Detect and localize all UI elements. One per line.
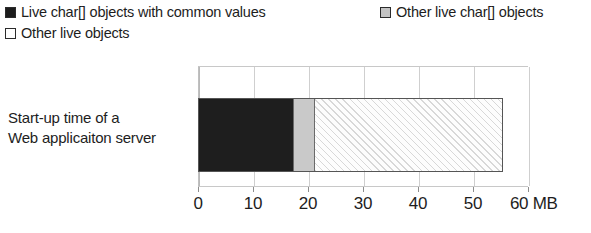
- x-axis: 0102030405060 MB: [198, 187, 528, 233]
- x-tick-label-0: 0: [193, 194, 202, 214]
- bar-segment-other-live-char: [293, 99, 315, 171]
- x-tick-mark-0: [198, 187, 199, 192]
- x-tick-label-60: 60 MB: [510, 194, 558, 214]
- bar-segment-other-live-objects: [315, 99, 502, 171]
- category-axis-label: Start-up time of a Web applicaiton serve…: [8, 108, 194, 148]
- x-tick-mark-30: [363, 187, 364, 192]
- x-tick-label-50: 50: [464, 194, 482, 214]
- x-tick-mark-20: [308, 187, 309, 192]
- x-tick-mark-60: [528, 187, 529, 192]
- legend-swatch-filled-gray-square: [380, 7, 391, 18]
- legend-item-label: Other live char[] objects: [396, 5, 543, 20]
- legend-item-live-char-common-values: Live char[] objects with common values: [5, 5, 266, 20]
- x-tick-mark-40: [418, 187, 419, 192]
- x-tick-label-30: 30: [354, 194, 372, 214]
- x-tick-mark-50: [473, 187, 474, 192]
- stacked-bar-row: [198, 98, 503, 172]
- chart-legend: Live char[] objects with common values O…: [0, 0, 591, 52]
- legend-swatch-empty-white-square: [5, 28, 16, 39]
- legend-item-label: Live char[] objects with common values: [21, 5, 266, 20]
- x-tick-mark-10: [253, 187, 254, 192]
- legend-item-label: Other live objects: [21, 26, 129, 41]
- category-label-line-2: Web applicaiton server: [8, 128, 194, 148]
- x-tick-label-20: 20: [299, 194, 317, 214]
- gridline-60: [529, 67, 530, 186]
- legend-item-other-live-char: Other live char[] objects: [380, 5, 543, 20]
- bar-segment-live-char-common-values: [199, 99, 293, 171]
- stacked-bar-chart: Live char[] objects with common values O…: [0, 0, 591, 233]
- x-tick-label-10: 10: [244, 194, 262, 214]
- x-tick-label-40: 40: [409, 194, 427, 214]
- legend-item-other-live-objects: Other live objects: [5, 26, 129, 41]
- category-label-line-1: Start-up time of a: [8, 108, 194, 128]
- legend-swatch-filled-black-square: [5, 7, 16, 18]
